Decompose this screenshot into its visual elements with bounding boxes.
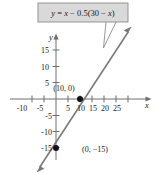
y-tick-label-neg15: -15 xyxy=(41,144,52,153)
x-tick-label-25: 25 xyxy=(113,104,121,113)
line-arrowhead-lower xyxy=(36,166,44,173)
y-axis-arrowhead xyxy=(53,34,58,40)
y-axis-label: y xyxy=(48,32,53,42)
coordinate-plane-svg: -10 -5 5 10 15 20 25 15 10 5 -5 -10 -15 … xyxy=(0,0,156,173)
equation-close-paren: ) xyxy=(112,8,115,18)
y-tick-label-neg5: -5 xyxy=(45,112,52,121)
line-arrowhead-upper xyxy=(124,26,132,33)
point-marker-y-intercept xyxy=(53,145,59,151)
equation-coefficient: 0.5(30 xyxy=(77,8,99,18)
y-tick-label-neg10: -10 xyxy=(41,128,52,137)
callout-tail xyxy=(104,22,117,48)
x-tick-label-20: 20 xyxy=(101,104,109,113)
x-tick-label-neg10: -10 xyxy=(17,104,28,113)
point-marker-x-intercept xyxy=(77,96,83,102)
y-tick-label-15: 15 xyxy=(41,46,49,55)
x-axis-label: x xyxy=(144,100,149,110)
point-label-y-intercept: (0, −15) xyxy=(82,145,108,154)
x-tick-label-neg5: -5 xyxy=(37,104,44,113)
equation-text: y = x − 0.5(30 − x) xyxy=(50,8,114,18)
x-tick-label-10: 10 xyxy=(77,104,85,113)
point-label-x-intercept: (10, 0) xyxy=(53,84,75,93)
y-tick-label-10: 10 xyxy=(41,63,49,72)
y-tick-label-5: 5 xyxy=(45,79,49,88)
graph-figure: -10 -5 5 10 15 20 25 15 10 5 -5 -10 -15 … xyxy=(0,0,156,173)
equation-callout-box: y = x − 0.5(30 − x) xyxy=(38,3,128,22)
x-tick-label-5: 5 xyxy=(66,104,70,113)
x-tick-label-15: 15 xyxy=(89,104,97,113)
